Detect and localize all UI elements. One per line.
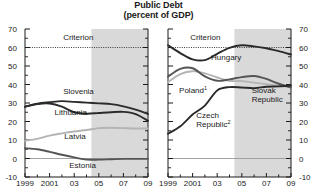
chart-canvas: 706050403020100-101999200103050709Criter…: [0, 0, 317, 195]
y-axis-tick-label: 50: [8, 62, 17, 71]
y-axis-tick-label: 60: [8, 44, 17, 53]
series-label: Slovenia: [63, 87, 94, 96]
x-axis-tick-label: 03: [70, 179, 79, 188]
x-axis-tick-label: 09: [144, 179, 153, 188]
x-axis-tick-label: 1999: [159, 179, 177, 188]
series-label: Hungary: [211, 53, 241, 62]
series-label: Criterion: [63, 33, 93, 42]
chart-figure: Public Debt (percent of GDP) 70605040302…: [0, 0, 317, 195]
x-axis-tick-label: 2001: [184, 179, 202, 188]
x-axis-tick-label: 03: [213, 179, 222, 188]
left-panel: 706050403020100-101999200103050709Criter…: [5, 25, 153, 188]
y-axis-tick-label: 10: [8, 136, 17, 145]
y-axis-tick-label: 70: [8, 25, 17, 34]
x-axis-tick-label: 05: [94, 179, 103, 188]
x-axis-tick-label: 2001: [41, 179, 59, 188]
y-axis-tick-label: 10: [299, 136, 308, 145]
y-axis-tick-label: -10: [299, 173, 311, 182]
x-axis-tick-label: 1999: [16, 179, 34, 188]
series-label: Poland1: [179, 85, 207, 95]
series-label: Latvia: [64, 132, 86, 141]
y-axis-tick-label: 50: [299, 62, 308, 71]
x-axis-tick-label: 07: [262, 179, 271, 188]
y-axis-tick-label: 20: [8, 118, 17, 127]
series-label: Lithuania: [55, 108, 88, 117]
y-axis-tick-label: 20: [299, 118, 308, 127]
series-label: Criterion: [190, 33, 220, 42]
y-axis-tick-label: 0: [13, 155, 18, 164]
y-axis-tick-label: 0: [299, 155, 304, 164]
y-axis-tick-label: 40: [8, 81, 17, 90]
x-axis-tick-label: 07: [119, 179, 128, 188]
y-axis-tick-label: 70: [299, 25, 308, 34]
series-label: Estonia: [69, 161, 96, 170]
y-axis-tick-label: 60: [299, 44, 308, 53]
right-panel: 706050403020100-101999200103050709Criter…: [159, 25, 311, 188]
series-label: CzechRepublic2: [196, 111, 230, 130]
y-axis-tick-label: 30: [8, 99, 17, 108]
y-axis-tick-label: 40: [299, 81, 308, 90]
x-axis-tick-label: 05: [237, 179, 246, 188]
y-axis-tick-label: 30: [299, 99, 308, 108]
x-axis-tick-label: 09: [287, 179, 296, 188]
